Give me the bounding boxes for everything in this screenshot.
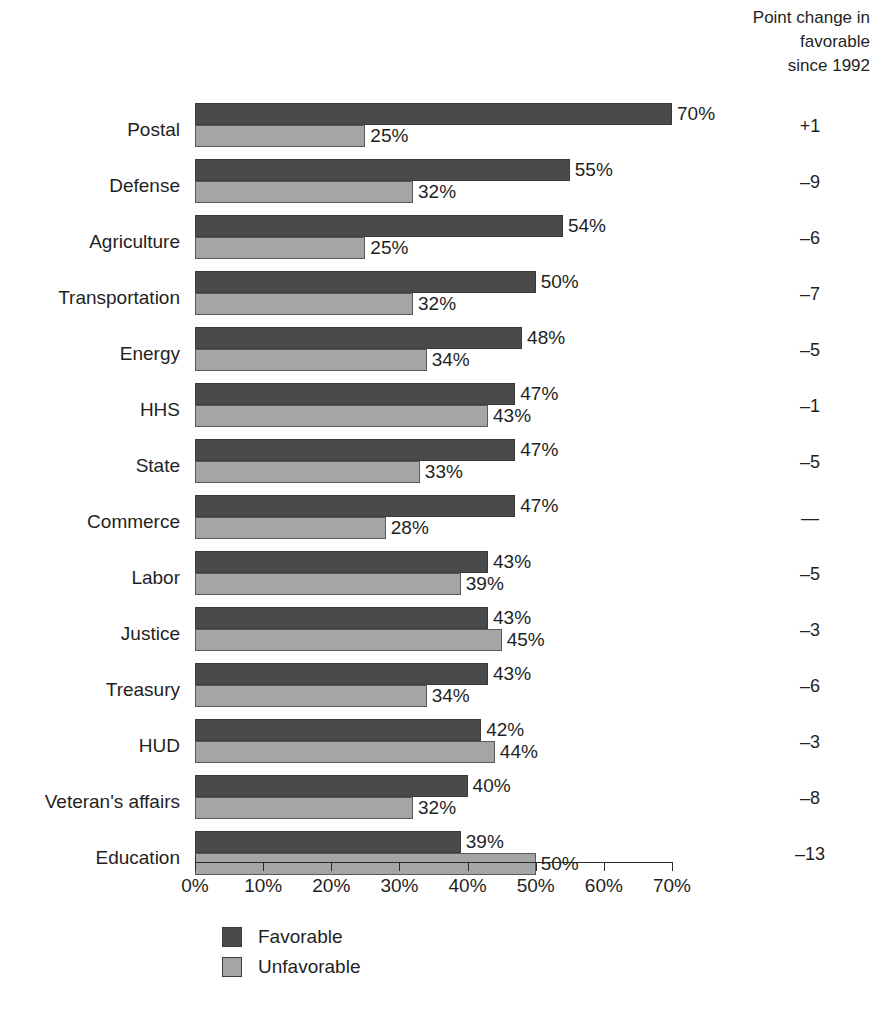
bar-unfav	[195, 293, 413, 315]
bar-value-label: 48%	[522, 327, 565, 349]
axis-tick	[195, 862, 196, 871]
bar-value-label: 43%	[488, 607, 531, 629]
bar-value-label: 25%	[365, 125, 408, 147]
axis-tick	[399, 862, 400, 871]
bar-unfav	[195, 685, 427, 707]
point-change-value: +1	[745, 114, 875, 138]
legend-swatch-icon	[222, 927, 242, 947]
bar-value-label: 32%	[413, 293, 456, 315]
legend-label: Favorable	[258, 922, 343, 952]
bar-fav	[195, 439, 515, 461]
bar-value-label: 40%	[468, 775, 511, 797]
bar-unfav	[195, 573, 461, 595]
bar-value-label: 39%	[461, 573, 504, 595]
category-label: HUD	[0, 731, 180, 761]
category-label: Commerce	[0, 507, 180, 537]
bar-value-label: 34%	[427, 685, 470, 707]
bar-unfav	[195, 181, 413, 203]
bar-value-label: 70%	[672, 103, 715, 125]
point-change-value: –13	[745, 842, 875, 866]
bar-value-label: 43%	[488, 551, 531, 573]
axis-tick-label: 0%	[181, 874, 208, 898]
bar-fav	[195, 215, 563, 237]
x-axis: 0%10%20%30%40%50%60%70%	[195, 862, 672, 922]
chart-row: Treasury43%34%–6	[0, 663, 877, 719]
chart-row: Agriculture54%25%–6	[0, 215, 877, 271]
bar-unfav	[195, 741, 495, 763]
category-label: HHS	[0, 395, 180, 425]
bar-value-label: 42%	[481, 719, 524, 741]
chart-row: State47%33%–5	[0, 439, 877, 495]
bar-unfav	[195, 461, 420, 483]
axis-tick-label: 20%	[312, 874, 350, 898]
bar-value-label: 55%	[570, 159, 613, 181]
axis-tick-label: 50%	[517, 874, 555, 898]
category-label: Labor	[0, 563, 180, 593]
chart-row: Energy48%34%–5	[0, 327, 877, 383]
chart-row: Defense55%32%–9	[0, 159, 877, 215]
point-change-value: —	[745, 506, 875, 530]
bar-value-label: 47%	[515, 495, 558, 517]
chart-row: Transportation50%32%–7	[0, 271, 877, 327]
point-change-value: –6	[745, 226, 875, 250]
bar-value-label: 28%	[386, 517, 429, 539]
point-change-value: –1	[745, 394, 875, 418]
bar-fav	[195, 383, 515, 405]
chart-row: Labor43%39%–5	[0, 551, 877, 607]
bar-value-label: 32%	[413, 181, 456, 203]
axis-tick	[331, 862, 332, 871]
category-label: Justice	[0, 619, 180, 649]
chart-row: Postal70%25%+1	[0, 103, 877, 159]
bar-fav	[195, 831, 461, 853]
bar-unfav	[195, 349, 427, 371]
bar-fav	[195, 271, 536, 293]
bar-value-label: 45%	[502, 629, 545, 651]
category-label: State	[0, 451, 180, 481]
bar-unfav	[195, 629, 502, 651]
point-change-value: –6	[745, 674, 875, 698]
axis-line	[195, 862, 672, 863]
point-change-value: –5	[745, 562, 875, 586]
bar-fav	[195, 663, 488, 685]
bar-value-label: 47%	[515, 383, 558, 405]
legend-swatch-icon	[222, 957, 242, 977]
bar-unfav	[195, 125, 365, 147]
bar-fav	[195, 719, 481, 741]
bar-unfav	[195, 405, 488, 427]
point-change-value: –8	[745, 786, 875, 810]
bar-unfav	[195, 517, 386, 539]
axis-tick-label: 30%	[380, 874, 418, 898]
category-label: Veteran's affairs	[0, 787, 180, 817]
bar-unfav	[195, 797, 413, 819]
point-change-value: –3	[745, 730, 875, 754]
axis-tick-label: 10%	[244, 874, 282, 898]
category-label: Energy	[0, 339, 180, 369]
axis-tick	[468, 862, 469, 871]
bar-fav	[195, 495, 515, 517]
axis-tick	[672, 862, 673, 871]
point-change-value: –3	[745, 618, 875, 642]
chart-row: Veteran's affairs40%32%–8	[0, 775, 877, 831]
chart-row: HHS47%43%–1	[0, 383, 877, 439]
bar-value-label: 39%	[461, 831, 504, 853]
bar-value-label: 47%	[515, 439, 558, 461]
category-label: Education	[0, 843, 180, 873]
bar-value-label: 54%	[563, 215, 606, 237]
legend-label: Unfavorable	[258, 952, 360, 982]
bar-fav	[195, 607, 488, 629]
bar-value-label: 32%	[413, 797, 456, 819]
point-change-value: –5	[745, 338, 875, 362]
bar-value-label: 44%	[495, 741, 538, 763]
axis-tick	[263, 862, 264, 871]
bar-value-label: 43%	[488, 405, 531, 427]
point-change-value: –5	[745, 450, 875, 474]
axis-tick-label: 60%	[585, 874, 623, 898]
bar-fav	[195, 159, 570, 181]
bar-unfav	[195, 237, 365, 259]
bar-fav	[195, 551, 488, 573]
bar-value-label: 34%	[427, 349, 470, 371]
bar-fav	[195, 103, 672, 125]
bar-fav	[195, 327, 522, 349]
point-change-value: –7	[745, 282, 875, 306]
bar-value-label: 43%	[488, 663, 531, 685]
